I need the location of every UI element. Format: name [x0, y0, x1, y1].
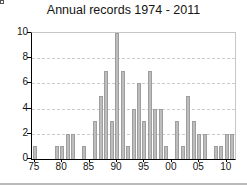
bar-1999: [164, 146, 168, 159]
chart-title: Annual records 1974 - 2011: [0, 3, 247, 17]
gridline-y6: [32, 83, 235, 84]
bar-1991: [121, 71, 125, 159]
y-tick-mark-4: [27, 108, 31, 109]
bar-1996: [148, 71, 152, 159]
y-tick-mark-8: [27, 57, 31, 58]
y-tick-mark-10: [27, 32, 31, 33]
y-tick-mark-0: [27, 158, 31, 159]
bar-1975: [33, 146, 37, 159]
y-tick-label-8: 8: [4, 51, 28, 63]
bar-1982: [71, 134, 75, 159]
bar-1990: [115, 33, 119, 159]
bar-1994: [137, 83, 141, 159]
bar-2003: [186, 96, 190, 159]
x-tick-label-00: 00: [160, 161, 182, 173]
gridline-y8: [32, 58, 235, 59]
bar-1984: [82, 146, 86, 159]
bar-1989: [110, 121, 114, 159]
y-tick-label-10: 10: [4, 26, 28, 38]
x-tick-label-95: 95: [132, 161, 154, 173]
y-tick-label-6: 6: [4, 76, 28, 88]
bar-1998: [159, 109, 163, 159]
bar-1997: [153, 109, 157, 159]
bar-2004: [192, 121, 196, 159]
bar-1995: [142, 121, 146, 159]
bar-2011: [230, 134, 234, 159]
bar-2006: [203, 134, 207, 159]
window-border-bottom: [0, 183, 247, 185]
bar-1981: [66, 134, 70, 159]
bar-1979: [55, 146, 59, 159]
bar-2009: [219, 146, 223, 159]
bar-1987: [99, 96, 103, 159]
x-tick-label-05: 05: [187, 161, 209, 173]
bar-2008: [214, 146, 218, 159]
y-tick-label-2: 2: [4, 127, 28, 139]
bar-1992: [126, 146, 130, 159]
y-tick-mark-2: [27, 133, 31, 134]
x-tick-label-10: 10: [215, 161, 237, 173]
bar-1980: [60, 146, 64, 159]
x-tick-label-75: 75: [23, 161, 45, 173]
y-tick-mark-6: [27, 82, 31, 83]
bar-2010: [225, 134, 229, 159]
bar-1986: [93, 121, 97, 159]
x-tick-label-80: 80: [50, 161, 72, 173]
bar-1993: [132, 109, 136, 159]
chart-window: Annual records 1974 - 2011 0246810 75808…: [0, 0, 247, 186]
x-tick-label-90: 90: [105, 161, 127, 173]
y-tick-label-4: 4: [4, 102, 28, 114]
bar-2005: [197, 134, 201, 159]
plot-area: [31, 32, 236, 160]
bar-2002: [181, 146, 185, 159]
x-tick-label-85: 85: [78, 161, 100, 173]
bar-1988: [104, 71, 108, 159]
bar-2001: [175, 121, 179, 159]
